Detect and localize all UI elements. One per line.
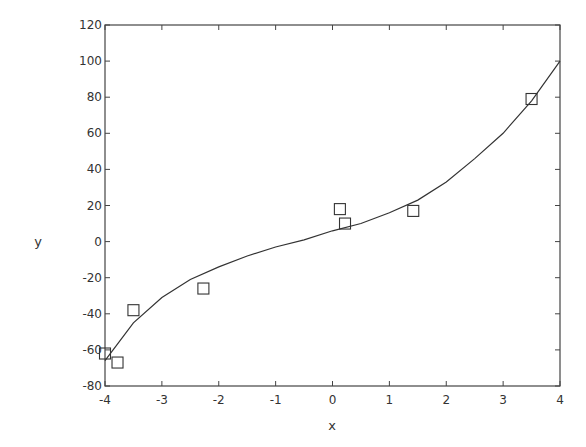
x-axis-label: x bbox=[328, 418, 336, 433]
y-tick-label: 60 bbox=[87, 126, 102, 140]
y-tick-label: 20 bbox=[87, 199, 102, 213]
plot-area bbox=[105, 25, 560, 386]
data-markers bbox=[100, 94, 538, 369]
y-tick-label: -40 bbox=[82, 307, 102, 321]
y-tick-label: 120 bbox=[79, 18, 102, 32]
plot-frame bbox=[105, 25, 560, 386]
data-point-marker bbox=[198, 283, 209, 294]
data-point-marker bbox=[408, 205, 419, 216]
y-tick-label: 80 bbox=[87, 90, 102, 104]
axis-ticks: -4-3-2-101234-80-60-40-20020406080100120 bbox=[79, 18, 564, 407]
data-point-marker bbox=[334, 204, 345, 215]
y-tick-label: -20 bbox=[82, 271, 102, 285]
x-tick-label: -2 bbox=[213, 393, 225, 407]
data-point-marker bbox=[526, 94, 537, 105]
data-point-marker bbox=[100, 348, 111, 359]
x-tick-label: -4 bbox=[99, 393, 111, 407]
fit-line-path bbox=[105, 61, 560, 361]
x-tick-label: 1 bbox=[386, 393, 394, 407]
y-tick-label: 40 bbox=[87, 162, 102, 176]
x-tick-label: 4 bbox=[556, 393, 564, 407]
y-axis-label: y bbox=[34, 234, 42, 249]
x-tick-label: -1 bbox=[270, 393, 282, 407]
x-tick-label: 3 bbox=[499, 393, 507, 407]
x-tick-label: 0 bbox=[329, 393, 337, 407]
fit-curve bbox=[105, 61, 560, 361]
y-tick-label: -80 bbox=[82, 379, 102, 393]
chart: -4-3-2-101234-80-60-40-20020406080100120… bbox=[0, 0, 586, 447]
data-point-marker bbox=[128, 305, 139, 316]
data-point-marker bbox=[112, 357, 123, 368]
y-tick-label: 100 bbox=[79, 54, 102, 68]
data-point-marker bbox=[340, 218, 351, 229]
x-tick-label: 2 bbox=[442, 393, 450, 407]
x-tick-label: -3 bbox=[156, 393, 168, 407]
y-tick-label: 0 bbox=[94, 235, 102, 249]
